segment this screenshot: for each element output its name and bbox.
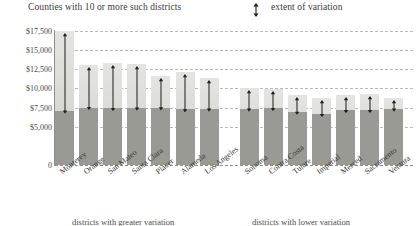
y-axis-tick-label: $10,000	[26, 84, 52, 93]
bar-lower-segment	[103, 108, 122, 165]
variation-arrow	[108, 65, 117, 111]
gridline	[55, 50, 413, 51]
variation-arrow	[245, 90, 254, 112]
y-axis-tick-label: $12,500	[26, 65, 52, 74]
variation-arrow	[156, 78, 165, 110]
variation-arrow	[317, 100, 326, 117]
bar	[55, 31, 74, 165]
bar-lower-segment	[176, 109, 195, 165]
legend-label: extent of variation	[271, 2, 343, 12]
bar-lower-segment	[360, 110, 379, 165]
variation-arrow	[293, 97, 302, 115]
variation-arrow	[341, 97, 350, 113]
bar	[312, 98, 331, 165]
variation-arrow	[84, 67, 93, 110]
y-axis-tick-label: $5,000	[30, 122, 52, 131]
bar	[176, 72, 195, 165]
variation-arrow	[181, 74, 190, 113]
bar-lower-segment	[55, 111, 74, 165]
variation-arrow	[269, 91, 278, 111]
y-axis-ticks: $17,500$15,000$12,500$10,000$7,500$5,000…	[0, 0, 52, 226]
bar	[336, 95, 355, 165]
bar	[264, 89, 283, 165]
y-axis-tick-label: $7,500	[30, 103, 52, 112]
variation-arrow	[60, 33, 69, 114]
variation-arrow	[389, 100, 398, 112]
bar	[103, 63, 122, 165]
y-axis-tick-label: $17,500	[26, 27, 52, 36]
bar	[240, 88, 259, 165]
variation-arrow	[132, 66, 141, 111]
gridline	[55, 31, 413, 32]
variation-arrow	[205, 80, 214, 112]
y-axis-tick-label: $15,000	[26, 46, 52, 55]
chart-container: Counties with 10 or more such districts …	[0, 0, 420, 226]
bar	[360, 94, 379, 165]
bar-lower-segment	[240, 109, 259, 165]
y-axis-tick-label: 0	[48, 161, 52, 170]
footnote-left: districts with greater variation	[72, 217, 174, 226]
double-headed-arrow-icon	[250, 3, 262, 17]
footnote-right: districts with lower variation	[252, 217, 350, 226]
variation-arrow	[365, 96, 374, 113]
